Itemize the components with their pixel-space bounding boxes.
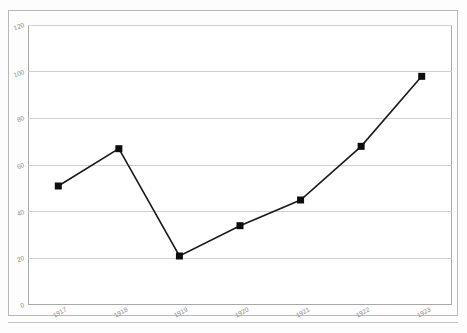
y-tick-label: 100 xyxy=(2,68,25,83)
data-point-1917 xyxy=(55,183,62,190)
data-markers-group xyxy=(55,73,425,260)
chart-figure: 020406080100120 191719181919192019211922… xyxy=(0,0,467,333)
x-tick-label: 1919 xyxy=(173,306,190,320)
y-axis-tick-labels: 020406080100120 xyxy=(0,25,26,305)
data-point-1918 xyxy=(115,145,122,152)
data-point-1923 xyxy=(418,73,425,80)
y-tick-label: 80 xyxy=(2,115,25,130)
y-tick-label: 60 xyxy=(2,161,25,176)
y-tick-label: 20 xyxy=(2,255,25,270)
x-tick-label: 1923 xyxy=(415,306,432,320)
line-chart-plot xyxy=(28,25,452,305)
data-point-1921 xyxy=(297,197,304,204)
y-tick-label: 40 xyxy=(2,208,25,223)
data-point-1922 xyxy=(358,143,365,150)
x-tick-label: 1921 xyxy=(294,306,311,320)
data-point-1920 xyxy=(237,222,244,229)
x-tick-label: 1922 xyxy=(355,306,372,320)
x-tick-label: 1918 xyxy=(112,306,129,320)
data-point-1919 xyxy=(176,253,183,260)
x-tick-label: 1920 xyxy=(234,306,251,320)
x-axis-tick-labels: 1917191819191920192119221923 xyxy=(28,305,452,333)
page-bottom-rule xyxy=(8,322,458,323)
y-tick-label: 120 xyxy=(2,21,25,36)
x-tick-label: 1917 xyxy=(52,306,69,320)
